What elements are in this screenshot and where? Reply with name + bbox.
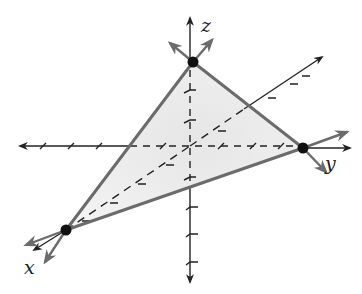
- diagram-canvas: z y x: [0, 0, 362, 294]
- y-axis-label: y: [325, 152, 336, 174]
- vertex-x-intercept: [61, 225, 72, 236]
- vertex-y-intercept: [298, 143, 309, 154]
- vertex-z-intercept: [188, 57, 199, 68]
- x-axis-label: x: [24, 256, 35, 278]
- z-axis-label: z: [201, 14, 211, 36]
- plane-diagram: [0, 0, 362, 294]
